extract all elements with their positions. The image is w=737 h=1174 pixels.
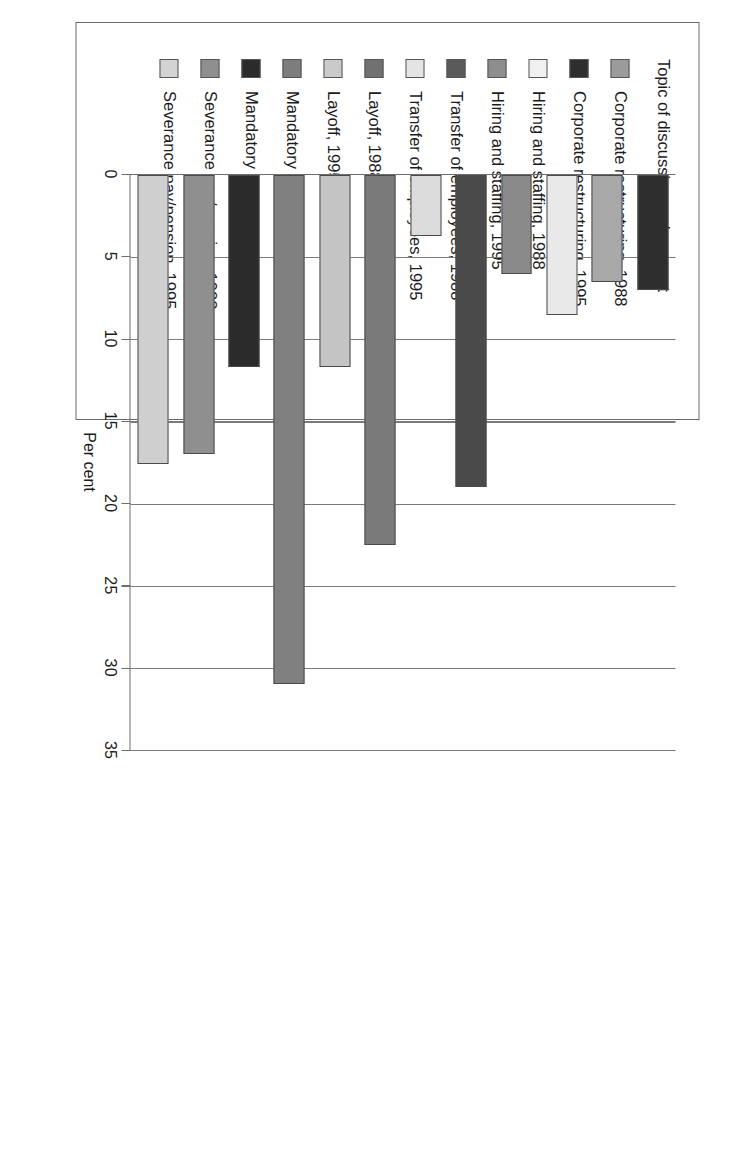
plot-area (129, 174, 675, 750)
axis-tick-label: 35 (100, 741, 118, 759)
bar[interactable] (501, 175, 532, 274)
bar-slot (584, 175, 629, 750)
legend-swatch-icon (200, 59, 219, 78)
axis-tick (121, 585, 130, 586)
bar-slot (357, 175, 402, 750)
bar-slot (448, 175, 493, 750)
bar-slot (266, 175, 311, 750)
bar-slot (175, 175, 220, 750)
axis-tick-label: 30 (100, 659, 118, 677)
axis-tick-label: 25 (100, 576, 118, 594)
axis-tick (121, 750, 130, 751)
axis-tick-label: 20 (100, 494, 118, 512)
axis-tick (121, 339, 130, 340)
bar[interactable] (410, 175, 441, 236)
bar[interactable] (637, 175, 668, 290)
axis-tick-label: 5 (100, 252, 118, 261)
legend-swatch-icon (569, 59, 588, 78)
axis-tick (121, 174, 130, 175)
bar[interactable] (364, 175, 395, 545)
axis-tick (121, 256, 130, 257)
legend-swatch-icon (610, 59, 629, 78)
axis-tick-label: 10 (100, 329, 118, 347)
figure: Topic of discussion and consent Corporat… (0, 0, 737, 1174)
bar[interactable] (591, 175, 622, 282)
legend-swatch-icon (282, 59, 301, 78)
legend-swatch-icon (241, 59, 260, 78)
bar[interactable] (137, 175, 168, 464)
bar-slot (130, 175, 175, 750)
axis-tick (121, 503, 130, 504)
chart-panel: 05101520253035 Per cent (43, 96, 691, 758)
legend-swatch-icon (323, 59, 342, 78)
gridline (130, 750, 675, 751)
bar[interactable] (455, 175, 486, 487)
bar[interactable] (183, 175, 214, 454)
bar[interactable] (228, 175, 259, 367)
bar-slot (402, 175, 447, 750)
legend-swatch-icon (446, 59, 465, 78)
bar[interactable] (273, 175, 304, 684)
bar-slot (493, 175, 538, 750)
axis-tick (121, 421, 130, 422)
axis-tick-label: 0 (100, 169, 118, 178)
rotated-page-wrapper: Topic of discussion and consent Corporat… (0, 0, 737, 1174)
legend-swatch-icon (364, 59, 383, 78)
bar-slot (539, 175, 584, 750)
axis-tick (121, 668, 130, 669)
legend-swatch-icon (405, 59, 424, 78)
value-axis: 05101520253035 (129, 174, 130, 750)
bar[interactable] (319, 175, 350, 367)
bar-slot (221, 175, 266, 750)
legend-swatch-icon (528, 59, 547, 78)
axis-title: Per cent (79, 174, 97, 750)
bar[interactable] (546, 175, 577, 315)
legend-swatch-icon (487, 59, 506, 78)
bar-series (130, 175, 675, 750)
bar-slot (312, 175, 357, 750)
legend-swatch-icon (159, 59, 178, 78)
bar-slot (630, 175, 675, 750)
axis-tick-label: 15 (100, 412, 118, 430)
